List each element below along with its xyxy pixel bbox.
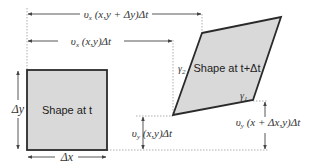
vy-left-label: υy (x,y)Δt (132, 127, 173, 141)
delta-y-label: Δy (11, 102, 25, 116)
shear-diagram: Shape at t Shape at t+Δt γ2 γ1 υx (x,y +… (0, 0, 313, 168)
vx-top-label: υx (x,y + Δy)Δt (84, 8, 149, 22)
delta-x-label: Δx (60, 150, 74, 164)
shape-at-t-dt-label: Shape at t+Δt (194, 62, 261, 74)
vy-right-label: υy (x + Δx,y)Δt (236, 116, 301, 130)
vx-bottom-label: υx (x,y)Δt (71, 35, 112, 49)
gamma-2-label: γ2 (178, 63, 186, 76)
shape-at-t-label: Shape at t (42, 104, 92, 116)
